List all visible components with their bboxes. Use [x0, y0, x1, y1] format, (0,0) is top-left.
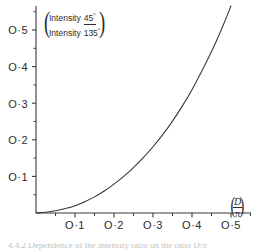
y-axis-label: ( Intensity 45° Intensity 135° )	[42, 9, 107, 40]
y-tick-label-1: O·2	[4, 134, 28, 146]
figure-caption: 4.4.2 Dependence of the intensity ratio …	[8, 243, 207, 250]
x-tick-label-4: O·5	[219, 219, 243, 231]
x-tick-label-2: O·3	[141, 219, 165, 231]
x-axis-label: ( D π )	[229, 196, 246, 219]
y-label-numerator-value: 45°	[84, 10, 96, 25]
y-label-numerator-word: Intensity	[49, 13, 81, 24]
y-label-fraction: Intensity 45° Intensity 135°	[49, 9, 100, 40]
y-label-denominator-value: 135°	[84, 25, 101, 39]
y-label-numerator-degree-icon: °	[93, 12, 95, 18]
x-label-right-paren: )	[240, 193, 245, 219]
figure-caption-strip: 4.4.2 Dependence of the intensity ratio …	[0, 243, 266, 251]
y-major-ticks	[32, 30, 36, 176]
y-label-right-paren: )	[99, 7, 105, 40]
x-tick-label-1: O·2	[102, 219, 126, 231]
y-label-denominator-number: 135	[84, 28, 98, 38]
y-label-numerator-number: 45	[84, 13, 93, 23]
y-label-denominator-word: Intensity	[49, 28, 81, 39]
y-label-left-paren: (	[44, 7, 50, 40]
y-tick-label-3: O·4	[4, 61, 28, 73]
y-tick-label-4: O·5	[4, 24, 28, 36]
x-major-ticks	[75, 213, 231, 218]
chart-plot-area	[0, 0, 266, 251]
x-tick-label-0: O·1	[63, 219, 87, 231]
y-tick-label-2: O·3	[4, 98, 28, 110]
y-label-numerator: Intensity 45°	[49, 10, 100, 25]
figure-container: O·1 O·2 O·3 O·4 O·5 O·1 O·2 O·3 O·4 O·5 …	[0, 0, 266, 251]
x-tick-label-3: O·4	[180, 219, 204, 231]
y-label-denominator: Intensity 135°	[49, 25, 100, 39]
y-tick-label-0: O·1	[4, 171, 28, 183]
x-label-left-paren: (	[231, 193, 236, 219]
